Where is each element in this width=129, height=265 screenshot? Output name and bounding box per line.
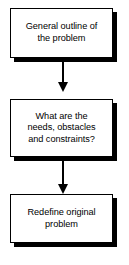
process-box-general-outline: General outline of the problem <box>10 8 113 58</box>
arrow-line <box>62 157 64 185</box>
arrow-line <box>62 58 64 83</box>
arrow-head-icon <box>58 184 68 194</box>
process-box-label: General outline of the problem <box>23 21 101 44</box>
arrow-head-icon <box>58 82 68 92</box>
process-box-label: What are the needs, obstacles and constr… <box>24 111 98 146</box>
flowchart-diagram: General outline of the problem What are … <box>0 0 129 265</box>
process-box-label: Redefine original problem <box>24 207 98 230</box>
arrow-connector-outline-to-needs <box>52 58 74 92</box>
arrow-connector-needs-to-redefine <box>52 157 74 194</box>
process-box-needs-obstacles-constraints: What are the needs, obstacles and constr… <box>10 99 113 157</box>
process-box-redefine-original-problem: Redefine original problem <box>10 194 113 243</box>
